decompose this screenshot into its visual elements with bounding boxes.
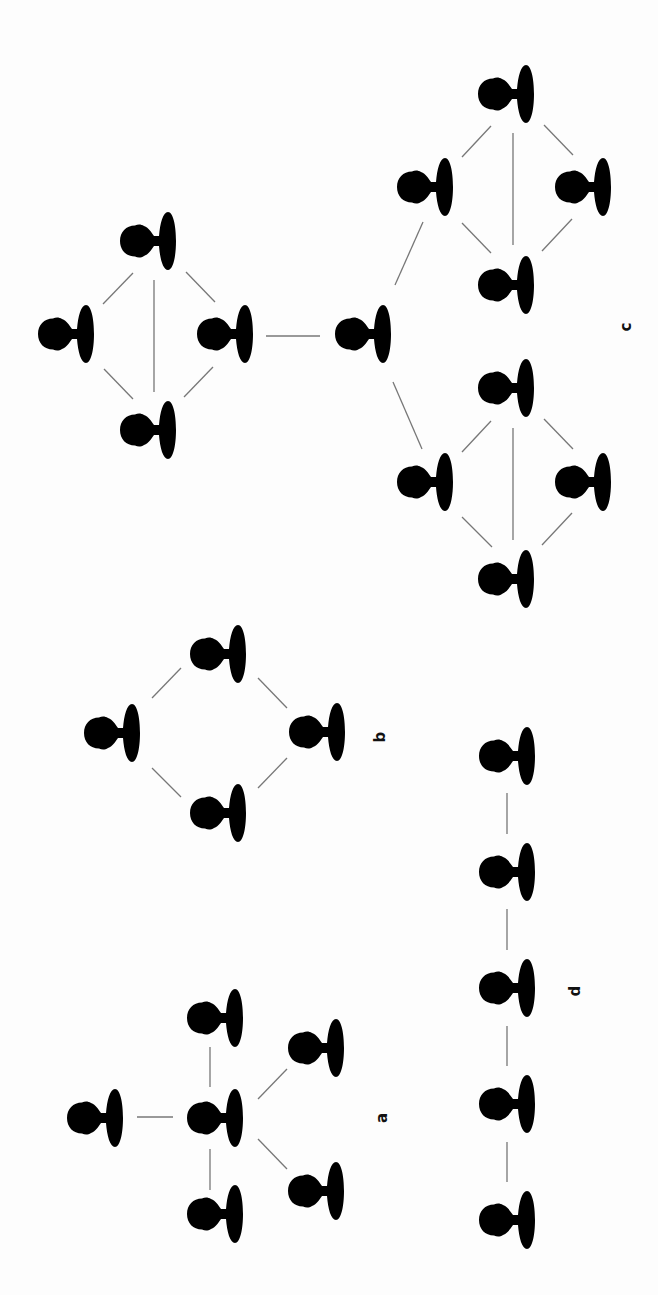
person-icon (478, 359, 534, 417)
nodes-layer (38, 65, 611, 1249)
person-icon (397, 158, 453, 216)
label-a: a (370, 1106, 394, 1130)
label-b: b (368, 725, 392, 749)
person-icon (84, 704, 140, 762)
person-icon (120, 401, 176, 459)
person-icon (38, 305, 94, 363)
person-icon (479, 1075, 535, 1133)
network-diagram: a b c d (0, 0, 658, 1295)
person-icon (187, 1089, 243, 1147)
person-icon (197, 305, 253, 363)
person-icon (289, 703, 345, 761)
person-icon (478, 550, 534, 608)
person-icon (479, 843, 535, 901)
network-b-edges (152, 668, 287, 797)
person-icon (555, 158, 611, 216)
person-icon (335, 305, 391, 363)
label-c: c (614, 315, 638, 339)
network-b-nodes (84, 625, 345, 842)
person-icon (397, 453, 453, 511)
person-icon (190, 625, 246, 683)
person-icon (187, 989, 243, 1047)
network-c-nodes (38, 65, 611, 608)
person-icon (67, 1089, 123, 1147)
person-icon (288, 1019, 344, 1077)
network-a-nodes (67, 989, 344, 1243)
person-icon (478, 256, 534, 314)
person-icon (555, 453, 611, 511)
person-icon (288, 1162, 344, 1220)
label-d: d (563, 979, 587, 1003)
person-icon (479, 959, 535, 1017)
person-icon (187, 1185, 243, 1243)
diagram-canvas (0, 0, 658, 1295)
person-icon (478, 65, 534, 123)
person-icon (190, 784, 246, 842)
person-icon (479, 1191, 535, 1249)
person-icon (120, 212, 176, 270)
person-icon (479, 727, 535, 785)
